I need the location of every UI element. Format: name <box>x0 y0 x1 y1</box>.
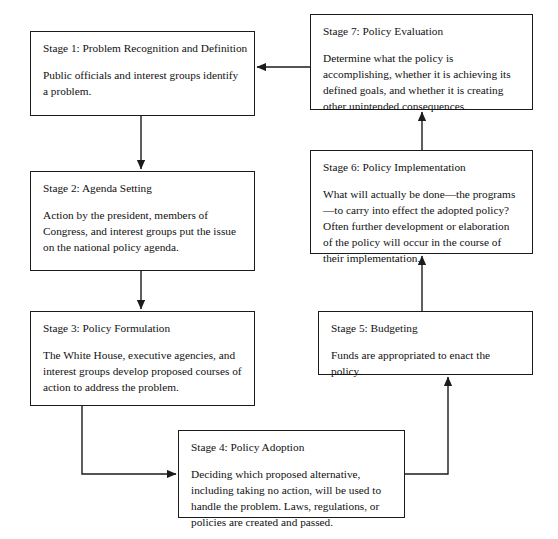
stage-5-body: Funds are appropriated to enact the poli… <box>331 347 520 379</box>
stage-3-body: The White House, executive agencies, and… <box>43 347 242 395</box>
stage-2-body: Action by the president, members of Cong… <box>43 207 242 255</box>
stage-2-title: Stage 2: Agenda Setting <box>43 181 242 196</box>
stage-box-3: Stage 3: Policy Formulation The White Ho… <box>30 311 255 406</box>
arrow-stage-4-to-5 <box>405 377 448 474</box>
stage-6-body: What will actually be done—the programs—… <box>323 186 520 266</box>
arrow-stage-3-to-4 <box>82 406 176 474</box>
stage-4-body: Deciding which proposed alternative, inc… <box>191 466 392 530</box>
stage-box-2: Stage 2: Agenda Setting Action by the pr… <box>30 171 255 271</box>
stage-1-title: Stage 1: Problem Recognition and Definit… <box>43 41 242 56</box>
stage-box-6: Stage 6: Policy Implementation What will… <box>310 150 533 254</box>
stage-box-5: Stage 5: Budgeting Funds are appropriate… <box>318 311 533 375</box>
stage-7-title: Stage 7: Policy Evaluation <box>323 24 520 39</box>
stage-5-title: Stage 5: Budgeting <box>331 321 520 336</box>
stage-box-7: Stage 7: Policy Evaluation Determine wha… <box>310 14 533 110</box>
stage-box-4: Stage 4: Policy Adoption Deciding which … <box>178 430 405 518</box>
stage-1-body: Public officials and interest groups ide… <box>43 67 242 99</box>
stage-7-body: Determine what the policy is accomplishi… <box>323 50 520 114</box>
stage-3-title: Stage 3: Policy Formulation <box>43 321 242 336</box>
stage-4-title: Stage 4: Policy Adoption <box>191 440 392 455</box>
stage-6-title: Stage 6: Policy Implementation <box>323 160 520 175</box>
stage-box-1: Stage 1: Problem Recognition and Definit… <box>30 31 255 116</box>
policy-process-flowchart: Stage 1: Problem Recognition and Definit… <box>0 0 558 539</box>
